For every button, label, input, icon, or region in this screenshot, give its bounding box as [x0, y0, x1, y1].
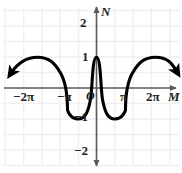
x-axis-name-label: M [168, 90, 180, 103]
y-tick-label-neg-1: −1 [74, 110, 88, 123]
cosine-graph-figure: −2π −π π 2π 2 1 −1 −2 O N M [0, 0, 182, 173]
x-tick-label-neg-pi: −π [57, 90, 72, 103]
x-tick-label-pi: π [120, 90, 127, 103]
x-tick-label-neg-2pi: −2π [13, 90, 34, 103]
y-axis-name-label: N [101, 5, 110, 18]
x-tick-label-2pi: 2π [146, 90, 160, 103]
coordinate-plane-svg [0, 0, 182, 173]
origin-label: O [86, 90, 95, 102]
y-tick-label-1: 1 [82, 50, 89, 63]
y-tick-label-neg-2: −2 [74, 144, 88, 157]
y-tick-label-2: 2 [80, 16, 87, 29]
